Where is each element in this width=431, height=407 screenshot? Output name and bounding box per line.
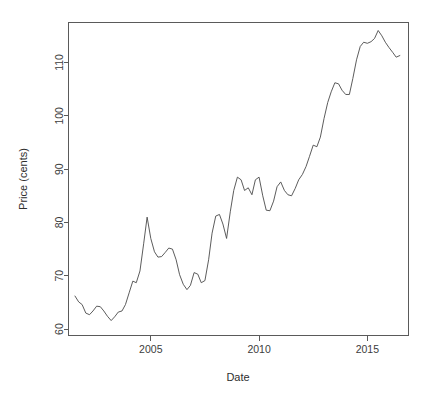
y-axis-title: Price (cents) xyxy=(17,148,29,210)
x-axis-ticks xyxy=(151,336,368,341)
plot-box xyxy=(69,23,409,336)
y-tick-label: 90 xyxy=(54,163,66,175)
x-tick-label: 2010 xyxy=(247,343,271,355)
x-axis-tick-labels: 200520102015 xyxy=(139,343,379,355)
x-tick-label: 2015 xyxy=(356,343,380,355)
y-tick-label: 60 xyxy=(54,323,66,335)
x-axis-title: Date xyxy=(226,371,249,383)
y-tick-label: 80 xyxy=(54,216,66,228)
plot-area: 60708090100110 200520102015 Date Price (… xyxy=(0,0,431,407)
y-tick-label: 70 xyxy=(54,270,66,282)
x-tick-label: 2005 xyxy=(139,343,163,355)
y-tick-label: 110 xyxy=(54,54,66,71)
y-tick-label: 100 xyxy=(54,107,66,125)
chart-screenshot: 60708090100110 200520102015 Date Price (… xyxy=(0,0,431,407)
y-axis-ticks xyxy=(64,62,69,329)
y-axis-tick-labels: 60708090100110 xyxy=(54,54,66,335)
price-series-line xyxy=(75,31,400,321)
line-chart-figure: 60708090100110 200520102015 Date Price (… xyxy=(0,0,431,407)
